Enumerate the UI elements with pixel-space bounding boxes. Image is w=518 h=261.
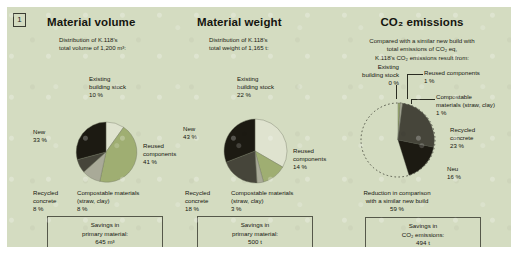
label-existing-building-stock: Existing building stock 10 % [89, 75, 159, 100]
label-compostable-materials: Compostable materials (straw, clay) 1 % [436, 93, 511, 118]
label-reused-components: Reused components 1 % [424, 69, 510, 85]
chart-subtitle: Compared with a similar new build with t… [333, 37, 511, 62]
label-recycled-concrete: Recycled concrete 23 % [450, 126, 500, 151]
leader-line-reused-vertical [407, 74, 408, 99]
chart-subtitle: Distribution of K.118's total volume of … [33, 36, 179, 53]
label-new: New 33 % [33, 128, 69, 144]
savings-box: Savings in primary material: 645 m³ [47, 216, 163, 247]
label-existing-building-stock: Existing building stock 0 % [345, 63, 399, 88]
label-existing-building-stock: Existing building stock 22 % [237, 75, 307, 100]
savings-box: Savings in CO₂ emissions: 494 t [365, 217, 481, 247]
label-new: New 43 % [183, 125, 219, 141]
label-recycled-concrete: Recycled concrete 8 % [33, 189, 73, 214]
chart-subtitle: Distribution of K.118's total weight of … [183, 36, 329, 53]
label-reduction: Reduction in comparison with a similar n… [335, 189, 459, 214]
chart-material-weight: Material weight Distribution of K.118's … [183, 7, 331, 247]
leader-line-reused-horizontal [407, 74, 423, 75]
chart-title: Material volume [33, 16, 195, 28]
chart-title: Material weight [183, 16, 345, 28]
label-compostable-materials: Compostable materials (straw, clay) 8 % [77, 189, 169, 214]
label-recycled-concrete: Recycled concrete 18 % [185, 189, 227, 214]
pie-chart [74, 120, 138, 184]
chart-material-volume: Material volume Distribution of K.118's … [33, 7, 181, 247]
chart-title: CO₂ emissions [333, 16, 511, 28]
label-new: Neu 16 % [447, 165, 491, 181]
leader-line-compostable-horizontal [411, 99, 435, 100]
pie-chart [357, 99, 439, 181]
chart-co2-emissions: CO₂ emissions Compared with a similar ne… [333, 7, 511, 247]
label-compostable-materials: Compostable materials (straw, clay) 3 % [231, 189, 325, 214]
savings-box: Savings in primary material: 500 t [197, 216, 313, 247]
pie-chart [221, 117, 289, 185]
label-reused-components: Reused components 41 % [143, 142, 187, 167]
figure-panel: 1 Material volume Distribution of K.118'… [7, 7, 511, 247]
figure-number: 1 [13, 13, 26, 27]
